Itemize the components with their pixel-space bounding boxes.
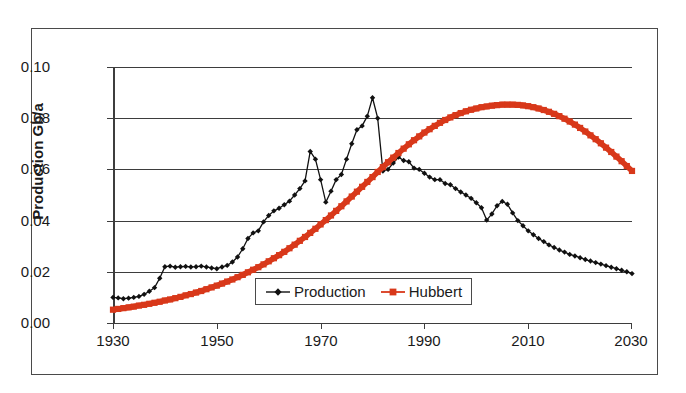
y-tick-label-0.10: 0.10	[0, 59, 50, 74]
chart-legend: Production Hubbert	[255, 278, 472, 305]
legend-marker-square-icon	[380, 286, 406, 298]
x-tick-label-1950: 1950	[182, 333, 252, 348]
y-tick-label-0.06: 0.06	[0, 161, 50, 176]
legend-label-production: Production	[294, 284, 366, 299]
x-tick-mark-1990	[424, 323, 425, 329]
legend-label-hubbert: Hubbert	[409, 284, 462, 299]
x-tick-mark-1970	[321, 323, 322, 329]
x-tick-label-1990: 1990	[389, 333, 459, 348]
gridline-0.00	[113, 323, 632, 324]
legend-entry-hubbert: Hubbert	[380, 284, 462, 299]
y-tick-label-0.08: 0.08	[0, 110, 50, 125]
x-tick-label-1970: 1970	[286, 333, 356, 348]
x-tick-mark-2030	[631, 323, 632, 329]
x-tick-mark-2010	[528, 323, 529, 329]
x-tick-mark-1930	[113, 323, 114, 329]
y-tick-label-0.02: 0.02	[0, 264, 50, 279]
x-tick-label-1930: 1930	[78, 333, 148, 348]
legend-marker-diamond-icon	[265, 286, 291, 298]
x-tick-mark-1950	[217, 323, 218, 329]
y-tick-label-0.00: 0.00	[0, 315, 50, 330]
series-production	[110, 95, 634, 301]
legend-entry-production: Production	[265, 284, 366, 299]
y-tick-label-0.04: 0.04	[0, 213, 50, 228]
x-tick-label-2030: 2030	[596, 333, 666, 348]
chart-figure: Production Gb/a 0.10 0.08 0.06 0.04 0.02…	[0, 0, 686, 393]
x-tick-label-2010: 2010	[493, 333, 563, 348]
